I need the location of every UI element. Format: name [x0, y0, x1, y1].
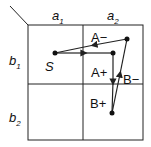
col-label-a2: a2 [107, 9, 119, 26]
row-label-b2: b2 [9, 111, 21, 128]
col-label-a1: a1 [52, 9, 64, 26]
label-a-minus: A− [91, 31, 107, 44]
row-label-b1: b1 [9, 54, 21, 71]
label-a-plus: A+ [91, 66, 107, 79]
start-label: S [45, 60, 54, 73]
label-b-minus: B− [123, 73, 139, 86]
point-a-plus [111, 51, 116, 56]
start-point [53, 51, 58, 56]
corner-diagonal [10, 6, 28, 25]
point-b-plus [110, 111, 115, 116]
label-b-plus: B+ [90, 97, 106, 110]
point-a-minus [125, 37, 130, 42]
